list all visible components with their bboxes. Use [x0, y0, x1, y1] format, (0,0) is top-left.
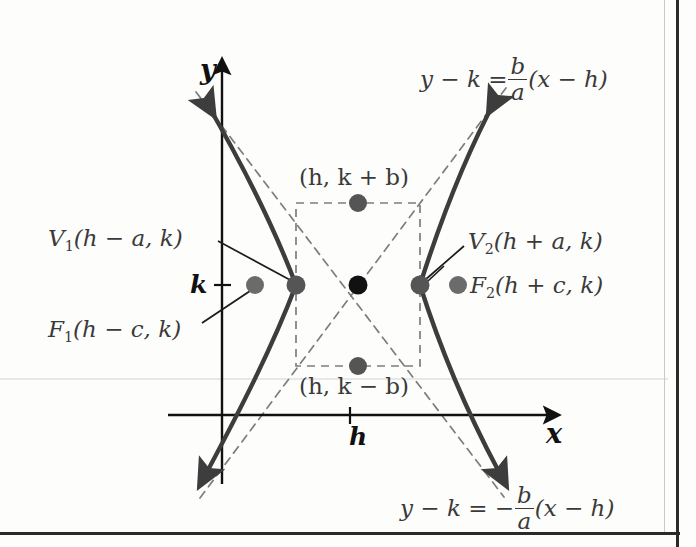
leader-focus-left [202, 291, 250, 323]
asymptote-positive-label: y − k =ba(x − h) [420, 56, 608, 106]
vertex-left-label: V1(h − a, k) [48, 227, 183, 253]
covertex-bottom-label: (h, k − b) [299, 375, 409, 398]
focus-right-coords: (h + c, k) [495, 272, 603, 298]
asymptote-positive-denominator: a [508, 81, 527, 104]
plotted-points [246, 194, 467, 375]
x-axis-label: x [546, 420, 562, 447]
focus-right-label: F2(h + c, k) [470, 274, 603, 300]
vertex-left-subscript: 1 [65, 238, 74, 254]
vertex-right-coords: (h + a, k) [494, 228, 603, 254]
covertex-top-label: (h, k + b) [299, 166, 409, 189]
asymptote-negative-rhs: (x − h) [535, 495, 615, 521]
asymptote-negative-denominator: a [515, 510, 534, 533]
asymptote-positive-rhs: (x − h) [528, 66, 608, 92]
focus-left-subscript: 1 [64, 329, 73, 345]
y-axis-label: y [200, 56, 216, 83]
asymptote-positive-fraction: ba [508, 55, 527, 105]
point-vertex-left [287, 276, 306, 295]
vertex-left-coords: (h − a, k) [74, 225, 183, 251]
asymptote-negative-lhs: y − k = − [400, 495, 514, 521]
asymptote-positive-lhs: y − k = [420, 66, 507, 92]
focus-left-name: F [48, 316, 64, 342]
x-tick-label-h: h [349, 424, 367, 449]
figure-page: y x h k y − k =ba(x − h) y − k = −ba(x −… [0, 0, 696, 547]
point-center [349, 276, 368, 295]
asymptote-positive-numerator: b [508, 55, 527, 78]
leader-focus-right [428, 266, 444, 281]
focus-left-label: F1(h − c, k) [48, 318, 181, 344]
focus-left-coords: (h − c, k) [73, 316, 181, 342]
asymptote-negative-numerator: b [515, 484, 534, 507]
point-vertex-right [411, 276, 430, 295]
point-focus-right [449, 276, 467, 294]
y-tick-label-k: k [190, 272, 207, 297]
vertex-right-label: V2(h + a, k) [468, 230, 603, 256]
point-covertex-top [349, 194, 367, 212]
asymptote-negative-label: y − k = −ba(x − h) [400, 485, 614, 535]
vertex-right-name: V [468, 228, 485, 254]
vertex-left-name: V [48, 225, 65, 251]
asymptote-negative-fraction: ba [515, 484, 534, 534]
focus-right-name: F [470, 272, 486, 298]
focus-right-subscript: 2 [486, 285, 495, 301]
point-focus-left [246, 276, 264, 294]
vertex-right-subscript: 2 [485, 241, 494, 257]
